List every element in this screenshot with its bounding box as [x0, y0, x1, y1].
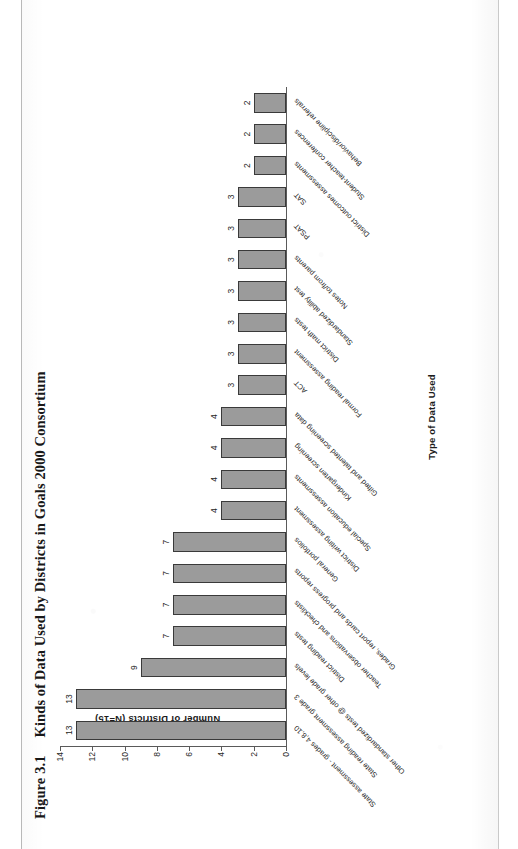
bar-series: 13139777744443333333222 — [60, 87, 286, 746]
y-axis-tick-label: 14 — [55, 752, 65, 761]
bar[interactable] — [238, 344, 286, 363]
category-slot: Behavior/discipline referrals — [290, 87, 420, 118]
y-axis-tick-label: 6 — [184, 752, 194, 757]
bar[interactable] — [238, 312, 286, 331]
x-axis-line — [286, 87, 287, 747]
bar[interactable] — [221, 438, 286, 457]
bar[interactable] — [238, 249, 286, 268]
x-axis-title: Type of Data Used — [426, 87, 437, 747]
bar-value-label: 13 — [64, 683, 74, 714]
bar-value-label: 3 — [226, 369, 236, 400]
page-edge-left — [21, 0, 22, 849]
x-axis-category-label: ACT — [292, 378, 309, 395]
category-slot: Standardized ability test — [290, 275, 420, 306]
bar-slot: 7 — [60, 589, 286, 620]
x-axis-category-labels: State assessment - grades 4,8,10State re… — [290, 87, 420, 746]
figure-number: Figure 3.1 — [32, 755, 48, 819]
bar[interactable] — [238, 187, 286, 206]
bar-value-label: 2 — [242, 149, 252, 180]
bar-slot: 13 — [60, 714, 286, 745]
bar-value-label: 13 — [64, 714, 74, 745]
y-axis-tick-mark — [189, 747, 190, 751]
category-slot: Student-teacher conferences — [290, 118, 420, 149]
bar[interactable] — [254, 93, 286, 112]
bar-value-label: 2 — [242, 87, 252, 118]
bar[interactable] — [238, 281, 286, 300]
bar[interactable] — [141, 657, 286, 676]
bar-slot: 3 — [60, 181, 286, 212]
x-axis-category-label: PSAT — [292, 221, 312, 241]
bar-value-label: 4 — [209, 463, 219, 494]
category-slot: Formal reading assessment — [290, 338, 420, 369]
category-slot: Kindergarten screening — [290, 432, 420, 463]
category-slot: District writing assessment — [290, 495, 420, 526]
y-axis-tick-label: 4 — [216, 752, 226, 757]
bar[interactable] — [173, 595, 286, 614]
bar-chart-plot-area: Number of Districts (N=15) Type of Data … — [60, 87, 286, 747]
bar-value-label: 7 — [161, 589, 171, 620]
bar[interactable] — [238, 218, 286, 237]
bar-slot: 3 — [60, 212, 286, 243]
bar-value-label: 9 — [129, 651, 139, 682]
bar-slot: 4 — [60, 495, 286, 526]
y-axis-tick-mark — [92, 747, 93, 751]
category-slot: Notes to/from parents — [290, 244, 420, 275]
x-axis-category-label: SAT — [292, 190, 308, 206]
bar-slot: 7 — [60, 526, 286, 557]
bar[interactable] — [76, 720, 286, 739]
figure-caption: Figure 3.1Kinds of Data Used by District… — [32, 371, 49, 819]
bar-slot: 3 — [60, 244, 286, 275]
bar-value-label: 4 — [209, 432, 219, 463]
bar[interactable] — [221, 406, 286, 425]
y-axis-tick-label: 2 — [249, 752, 259, 757]
y-axis-tick-mark — [221, 747, 222, 751]
bar[interactable] — [238, 375, 286, 394]
bar-value-label: 7 — [161, 620, 171, 651]
bar-slot: 4 — [60, 463, 286, 494]
bar-value-label: 3 — [226, 212, 236, 243]
bar-value-label: 4 — [209, 495, 219, 526]
bar[interactable] — [76, 689, 286, 708]
y-axis-tick-mark — [254, 747, 255, 751]
bar[interactable] — [254, 155, 286, 174]
bar-value-label: 7 — [161, 557, 171, 588]
bar-slot: 2 — [60, 87, 286, 118]
figure-page-content: Figure 3.1Kinds of Data Used by District… — [24, 25, 494, 825]
y-axis-tick-label: 8 — [152, 752, 162, 757]
bar-slot: 3 — [60, 369, 286, 400]
category-slot: District math tests — [290, 306, 420, 337]
bar-slot: 3 — [60, 306, 286, 337]
bar-slot: 4 — [60, 432, 286, 463]
category-slot: Teacher observations and checklists — [290, 589, 420, 620]
y-axis-tick-label: 12 — [87, 752, 97, 761]
page-edge-right — [498, 0, 499, 849]
bar-slot: 2 — [60, 118, 286, 149]
y-axis-tick-mark — [286, 747, 287, 751]
bar[interactable] — [173, 563, 286, 582]
bar-value-label: 3 — [226, 181, 236, 212]
bar-slot: 2 — [60, 149, 286, 180]
bar-slot: 3 — [60, 275, 286, 306]
bar-slot: 7 — [60, 620, 286, 651]
bar[interactable] — [173, 626, 286, 645]
bar[interactable] — [221, 469, 286, 488]
category-slot: ACT — [290, 369, 420, 400]
y-axis-tick-label: 10 — [120, 752, 130, 761]
bar-value-label: 3 — [226, 275, 236, 306]
bar[interactable] — [254, 124, 286, 143]
bar[interactable] — [221, 500, 286, 519]
bar-slot: 9 — [60, 651, 286, 682]
bar-value-label: 4 — [209, 400, 219, 431]
bar-slot: 3 — [60, 338, 286, 369]
bar-slot: 13 — [60, 683, 286, 714]
scanned-page: Figure 3.1Kinds of Data Used by District… — [0, 0, 518, 849]
bar-slot: 7 — [60, 557, 286, 588]
y-axis-tick-mark — [157, 747, 158, 751]
y-axis-tick-label: 0 — [281, 752, 291, 757]
bar-value-label: 3 — [226, 306, 236, 337]
bar[interactable] — [173, 532, 286, 551]
figure-title: Kinds of Data Used by Districts in Goals… — [32, 371, 48, 737]
y-axis-tick-mark — [60, 747, 61, 751]
category-slot: State reading assessment grade 3 — [290, 683, 420, 714]
bar-value-label: 7 — [161, 526, 171, 557]
